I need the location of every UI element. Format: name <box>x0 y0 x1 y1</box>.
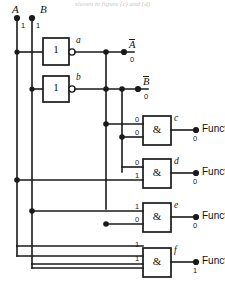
function-1-value: 0 <box>193 178 197 186</box>
node-label-e: e <box>174 201 178 211</box>
and-gate-1-symbol: & <box>143 124 171 135</box>
source-value-B: 1 <box>36 22 40 30</box>
circuit-schematic <box>0 0 225 283</box>
source-label-A: A <box>12 4 19 15</box>
function-2-label: Function2 <box>202 211 225 221</box>
inverter-2-bubble <box>69 86 75 92</box>
node-label-c: c <box>174 114 178 124</box>
inverter-2-symbol: 1 <box>43 82 69 93</box>
output-value-A-bar: 0 <box>130 56 134 64</box>
and-gate-3-input-bottom-value: 0 <box>135 216 139 224</box>
and-gate-1-input-bottom-value: 0 <box>135 129 139 137</box>
wire-gate4-output <box>171 259 199 265</box>
wire-node-b <box>75 86 148 92</box>
overbar-B: B <box>143 77 149 88</box>
and-gate-4-input-bottom-value: 1 <box>135 255 139 263</box>
function-3-label: Function 3 <box>202 256 225 266</box>
output-label-B-bar: B <box>143 77 149 88</box>
function-2-value: 0 <box>193 222 197 230</box>
and-gate-2-symbol: & <box>143 167 171 178</box>
overbar-A: A <box>129 40 135 51</box>
and-gate-2-input-top-value: 0 <box>135 159 139 167</box>
wire-gate3-input-top <box>29 208 143 214</box>
source-label-B: B <box>40 4 47 15</box>
wire-node-a <box>75 49 134 55</box>
function-0-label: Function 0 <box>202 124 225 134</box>
and-gate-2-input-bottom-value: 1 <box>135 172 139 180</box>
wire-gate1-input-bottom <box>119 134 143 140</box>
function-0-value: 0 <box>193 135 197 143</box>
wire-gate1-output <box>171 127 199 133</box>
diagram-canvas: shown in figure (c) and (d) <box>0 0 225 283</box>
and-gate-1-input-top-value: 0 <box>135 116 139 124</box>
source-value-A: 1 <box>21 22 25 30</box>
wire-gate4-input-bottom <box>32 264 143 268</box>
function-1-label: Function1 <box>202 167 225 177</box>
wire-gate3-output <box>171 214 199 220</box>
wire-gate2-output <box>171 170 199 176</box>
wire-gate2-input-bottom <box>14 177 143 183</box>
inverter-1-bubble <box>69 49 75 55</box>
and-gate-3-symbol: & <box>143 211 171 222</box>
inverter-1-symbol: 1 <box>43 44 69 55</box>
output-value-B-bar: 0 <box>144 93 148 101</box>
function-3-value: 1 <box>193 267 197 275</box>
and-gate-4-input-top-value: 1 <box>135 241 139 249</box>
node-label-b: b <box>76 73 81 83</box>
wire-gate4-input-top <box>17 246 143 256</box>
wire-B-to-inverter2 <box>29 86 43 91</box>
output-label-A-bar: A <box>129 40 135 51</box>
node-label-a: a <box>76 36 81 46</box>
wire-A-to-inverter1 <box>14 49 43 54</box>
and-gate-4-symbol: & <box>143 256 171 267</box>
and-gate-3-input-top-value: 1 <box>135 203 139 211</box>
node-label-d: d <box>174 157 179 167</box>
node-label-f: f <box>174 246 177 256</box>
